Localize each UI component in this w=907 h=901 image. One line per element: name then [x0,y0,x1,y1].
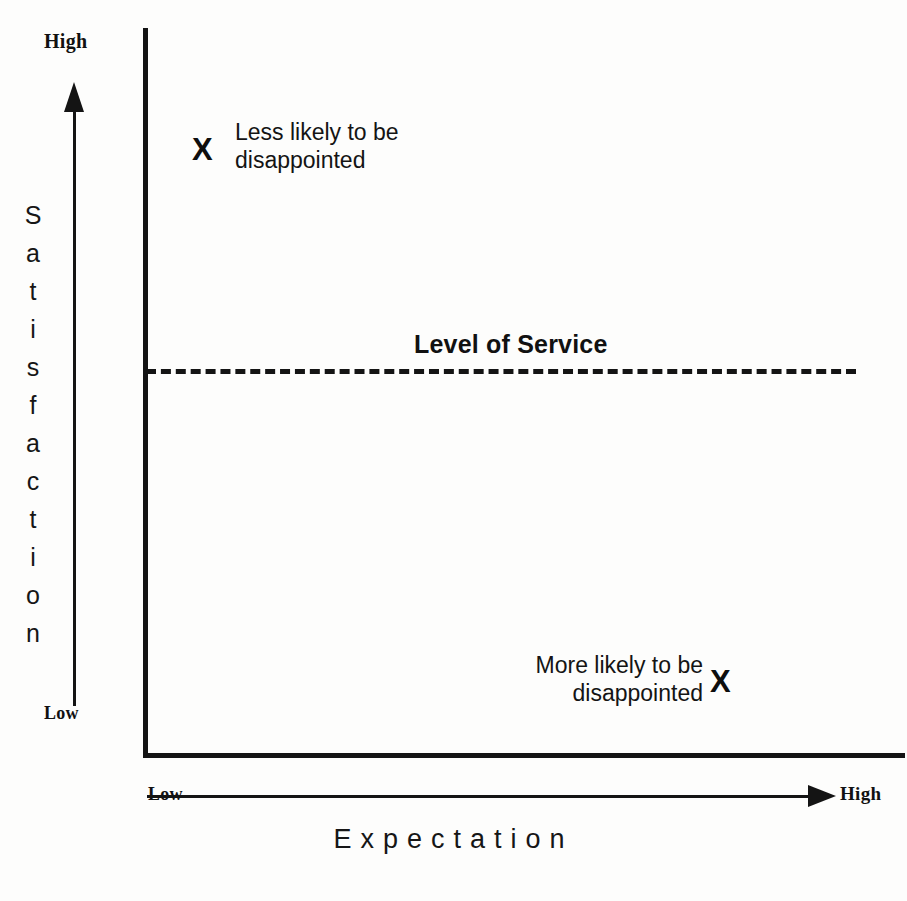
x-axis-high-label: High [840,783,881,805]
annotation-less-likely-line1: Less likely to be [235,118,399,146]
y-axis-line [143,28,148,758]
y-title-letter: a [14,234,52,272]
level-of-service-line [146,369,856,374]
annotation-less-likely: Less likely to be disappointed [235,118,399,174]
marker-x-icon-more-likely: X [710,666,731,697]
x-axis-title: Expectation [0,824,907,855]
y-title-letter: f [14,386,52,424]
y-axis-arrow-shaft [73,106,76,706]
x-axis-line [143,753,905,758]
annotation-less-likely-line2: disappointed [235,146,399,174]
annotation-more-likely-line2: disappointed [489,679,703,707]
level-of-service-label: Level of Service [410,330,612,359]
y-title-letter: t [14,500,52,538]
y-axis-high-label: High [44,30,87,53]
marker-x-icon-less-likely: X [192,134,213,165]
y-title-letter: n [14,614,52,652]
x-axis-arrow-icon [808,785,836,807]
y-title-letter: S [14,196,52,234]
y-title-letter: a [14,424,52,462]
y-title-letter: s [14,348,52,386]
y-title-letter: i [14,538,52,576]
y-axis-low-label: Low [44,703,79,724]
x-axis-arrow-shaft [147,795,812,798]
annotation-more-likely: More likely to be disappointed [489,651,703,707]
y-title-letter: o [14,576,52,614]
y-title-letter: c [14,462,52,500]
y-title-letter: i [14,310,52,348]
y-title-letter: t [14,272,52,310]
y-axis-title: S a t i s f a c t i o n [14,196,52,652]
annotation-more-likely-line1: More likely to be [489,651,703,679]
satisfaction-expectation-chart: High Low S a t i s f a c t i o n Level o… [0,0,907,901]
